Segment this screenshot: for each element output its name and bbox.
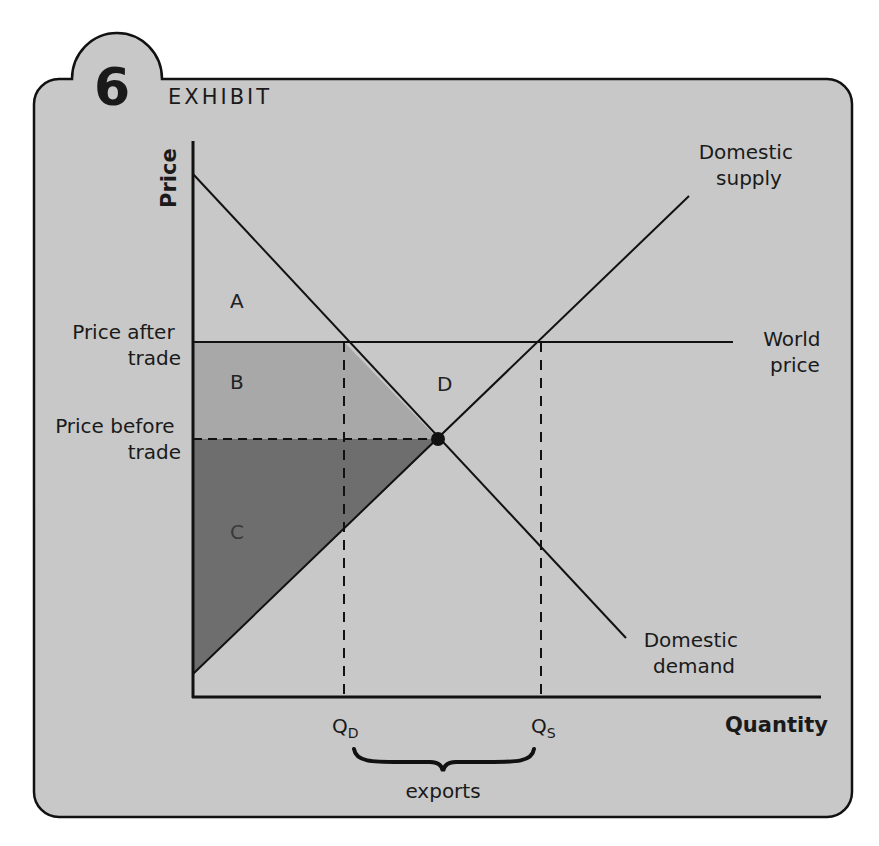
region-a-label: A xyxy=(230,289,244,313)
exhibit-label: EXHIBIT xyxy=(168,85,272,109)
exports-label: exports xyxy=(405,779,480,803)
x-axis-title: Quantity xyxy=(725,713,828,737)
exhibit-number: 6 xyxy=(94,57,130,117)
region-d-label: D xyxy=(437,372,452,396)
region-c-label: C xyxy=(230,520,244,544)
region-b-label: B xyxy=(230,370,244,394)
y-axis-title: Price xyxy=(157,148,181,208)
exhibit-figure: 6 EXHIBIT Price Quantity Price after tra… xyxy=(0,0,879,846)
equilibrium-point xyxy=(431,432,445,446)
